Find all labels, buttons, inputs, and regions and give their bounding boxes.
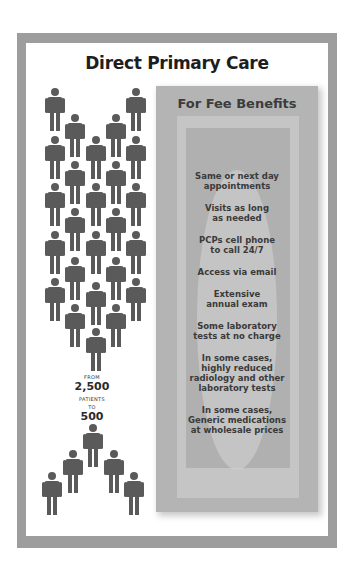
person-icon — [106, 161, 126, 205]
person-icon — [126, 88, 146, 132]
person-icon — [42, 472, 62, 516]
benefit-item: Some laboratory tests at no charge — [170, 321, 304, 341]
person-icon — [65, 208, 85, 252]
benefit-item: Access via email — [170, 267, 304, 277]
person-icon — [83, 424, 103, 468]
benefit-item: Extensive annual exam — [170, 289, 304, 309]
person-icon — [86, 136, 106, 180]
person-icon — [126, 231, 146, 275]
person-icon — [126, 183, 146, 227]
benefit-item: Visits as long as needed — [170, 203, 304, 223]
person-icon — [45, 136, 65, 180]
benefits-title: For Fee Benefits — [156, 96, 318, 111]
person-icon — [126, 278, 146, 322]
person-icon — [65, 114, 85, 158]
person-icon — [45, 231, 65, 275]
person-icon — [86, 183, 106, 227]
person-icon — [106, 114, 126, 158]
person-icon — [126, 136, 146, 180]
person-icon — [45, 88, 65, 132]
benefit-item: PCPs cell phone to call 24/7 — [170, 235, 304, 255]
person-icon — [65, 257, 85, 301]
person-icon — [106, 304, 126, 348]
benefit-item: In some cases, Generic medications at wh… — [170, 405, 304, 435]
stat-to-value: 500 — [66, 410, 118, 423]
benefit-item: In some cases, highly reduced radiology … — [170, 353, 304, 393]
person-icon — [86, 328, 106, 372]
person-icon — [45, 183, 65, 227]
person-icon — [106, 208, 126, 252]
benefit-item: Same or next day appointments — [170, 171, 304, 191]
person-icon — [104, 450, 124, 494]
person-icon — [65, 161, 85, 205]
benefits-list: Same or next day appointments Visits as … — [170, 171, 304, 447]
person-icon — [86, 282, 106, 326]
person-icon — [124, 472, 144, 516]
stat-patients-label: PATIENTS — [66, 396, 118, 402]
stat-from-value: 2,500 — [66, 380, 118, 393]
person-icon — [63, 450, 83, 494]
person-icon — [65, 304, 85, 348]
person-icon — [86, 231, 106, 275]
person-icon — [45, 278, 65, 322]
person-icon — [106, 257, 126, 301]
